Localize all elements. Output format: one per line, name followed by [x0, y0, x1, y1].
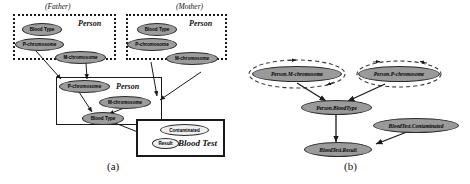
child-class-label: Person — [116, 82, 139, 91]
edge-pchrom-to-bloodtype — [348, 84, 385, 101]
mother-role-label: (Mother) — [176, 2, 203, 11]
figure-canvas: (Father) Person Blood Type P-chromosome … — [0, 0, 470, 184]
panel-b-label: (b) — [344, 160, 357, 172]
node-person-m-chromosome: Person.M-chromosome — [252, 66, 342, 82]
mother-p-chromosome-label: P-chromosome — [135, 42, 168, 47]
edge-mother-mchrom-to-child-mchrom — [160, 72, 201, 100]
mother-blood-type-label: Blood Type — [145, 27, 170, 32]
node-bloodtest-result: BloodTest.Result — [304, 142, 372, 157]
node-person-p-chromosome: Person.P-chromosome — [358, 66, 440, 82]
mother-m-chromosome-label: M-chromosome — [175, 56, 209, 61]
father-role-label: (Father) — [45, 2, 70, 11]
child-p-chromosome-label: P-chromosome — [68, 84, 101, 89]
mother-class-label: Person — [189, 19, 212, 28]
child-p-chromosome-node: P-chromosome — [59, 80, 110, 93]
node-bloodtest-contaminated-label: BloodTest.Contaminated — [389, 123, 444, 129]
father-blood-type-label: Blood Type — [30, 27, 55, 32]
father-p-chromosome-label: P-chromosome — [23, 42, 56, 47]
node-person-bloodtype-label: Person.BloodType — [316, 105, 357, 111]
node-bloodtest-result-label: BloodTest.Result — [319, 147, 356, 153]
father-m-chromosome-node: M-chromosome — [55, 51, 106, 64]
child-blood-type-label: Blood Type — [91, 116, 116, 121]
blood-test-class-label: Blood Test — [178, 138, 217, 148]
mother-blood-type-node: Blood Type — [137, 23, 177, 36]
father-class-label: Person — [78, 19, 101, 28]
blood-test-result-label: Result — [158, 141, 172, 146]
panel-a-label: (a) — [107, 160, 119, 172]
child-m-chromosome-node: M-chromosome — [99, 96, 151, 109]
child-m-chromosome-label: M-chromosome — [108, 100, 142, 105]
node-person-m-chromosome-label: Person.M-chromosome — [271, 71, 323, 77]
mother-m-chromosome-node: M-chromosome — [166, 52, 218, 65]
node-person-bloodtype: Person.BloodType — [301, 100, 372, 115]
node-bloodtest-contaminated: BloodTest.Contaminated — [373, 118, 459, 133]
edge-mchrom-to-bloodtype — [297, 83, 326, 101]
blood-test-result-node: Result — [152, 138, 179, 149]
mother-p-chromosome-node: P-chromosome — [127, 38, 177, 51]
child-blood-type-node: Blood Type — [82, 112, 124, 125]
father-p-chromosome-node: P-chromosome — [15, 38, 64, 51]
father-blood-type-node: Blood Type — [22, 23, 62, 36]
blood-test-contaminated-label: Contaminated — [169, 128, 200, 133]
father-m-chromosome-label: M-chromosome — [63, 55, 97, 60]
blood-test-contaminated-node: Contaminated — [160, 124, 209, 136]
node-person-p-chromosome-label: Person.P-chromosome — [374, 71, 424, 77]
